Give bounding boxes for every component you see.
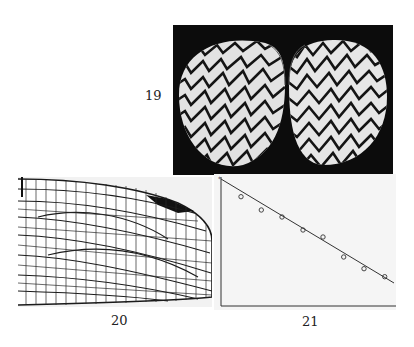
scatter-plot: * — [214, 174, 396, 310]
shell-illustration — [173, 25, 393, 175]
figure-label-20: 20 — [111, 313, 128, 328]
figure-label-21: 21 — [302, 314, 319, 329]
svg-text:*: * — [218, 175, 221, 182]
shell-photograph — [173, 25, 393, 175]
scatter-plot-canvas: * — [214, 174, 396, 310]
figure-label-19: 19 — [145, 88, 162, 103]
wing-illustration — [18, 177, 212, 307]
wing-venation-photograph — [18, 177, 212, 307]
